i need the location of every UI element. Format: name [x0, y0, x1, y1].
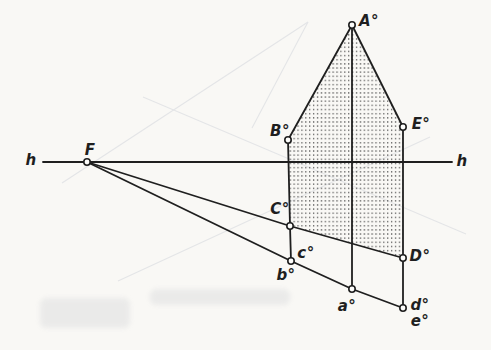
point-bc — [288, 258, 294, 264]
point-A — [349, 22, 355, 28]
point-C — [287, 223, 293, 229]
label-F: F — [85, 141, 96, 159]
point-de — [400, 305, 406, 311]
label-A: A° — [358, 12, 379, 30]
horizon-label-right: h — [456, 152, 467, 170]
label-e: e° — [411, 312, 430, 330]
point-F — [84, 159, 90, 165]
label-C: C° — [270, 200, 290, 218]
label-E: E° — [412, 115, 431, 133]
figure-canvas: hhFA°B°E°C°D°c°b°a°d°e° — [0, 0, 491, 350]
show-through-smudge-1 — [150, 289, 290, 305]
label-a: a° — [338, 297, 357, 315]
ghost-line-2 — [252, 22, 308, 128]
stippled-pentagon — [288, 25, 403, 258]
label-D: D° — [410, 247, 431, 265]
show-through-smudge-2 — [40, 298, 130, 328]
stippled-region-layer — [288, 25, 403, 258]
point-D — [400, 255, 406, 261]
point-a — [349, 286, 355, 292]
ghost-line-1 — [62, 22, 308, 183]
point-E — [400, 124, 406, 130]
horizon-label-left: h — [25, 151, 36, 169]
label-B: B° — [270, 122, 290, 140]
label-b: b° — [276, 266, 295, 284]
label-c: c° — [297, 244, 314, 262]
perspective-diagram: hhFA°B°E°C°D°c°b°a°d°e° — [0, 0, 491, 350]
